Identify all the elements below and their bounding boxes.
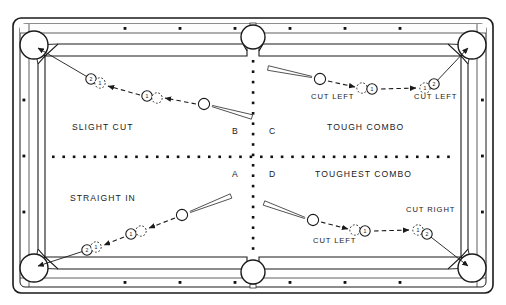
rail-diamond-left-0 xyxy=(23,99,26,102)
divider-dot-vertical xyxy=(252,216,255,219)
cut-label-top-right-0: CUT LEFT xyxy=(311,92,354,101)
divider-dot-horizontal xyxy=(354,156,357,159)
divider-dot-vertical xyxy=(252,185,255,188)
divider-dot-horizontal xyxy=(229,156,232,159)
rail-diamond-bottom-3 xyxy=(289,281,292,284)
divider-dot-horizontal xyxy=(94,156,97,159)
rail-diamond-left-1 xyxy=(23,155,26,158)
divider-dot-vertical xyxy=(252,133,255,136)
side-pocket-top xyxy=(241,25,265,49)
ball-number-1-top-left: 1 xyxy=(146,93,149,99)
cut-label-bottom-right-0: CUT LEFT xyxy=(313,236,356,245)
rail-diamond-bottom-2 xyxy=(234,281,237,284)
quadrant-letter-c: C xyxy=(269,126,275,136)
rail-diamond-top-5 xyxy=(399,27,402,30)
divider-dot-horizontal xyxy=(312,156,315,159)
ball-number-1-bottom-right: 1 xyxy=(417,227,420,233)
rail-diamond-bottom-5 xyxy=(399,281,402,284)
ball-number-1-bottom-right: 1 xyxy=(364,228,367,234)
divider-dot-horizontal xyxy=(177,156,180,159)
divider-dot-horizontal xyxy=(239,156,242,159)
ball-number-1-bottom-left: 1 xyxy=(95,244,98,250)
cue-ball-top-left xyxy=(198,98,209,109)
divider-dot-horizontal xyxy=(385,156,388,159)
divider-dot-vertical xyxy=(252,143,255,146)
divider-dot-horizontal xyxy=(125,156,128,159)
divider-dot-horizontal xyxy=(437,156,440,159)
divider-dot-horizontal xyxy=(406,156,409,159)
divider-dot-horizontal xyxy=(281,156,284,159)
rail-diamond-top-3 xyxy=(289,27,292,30)
ball-number-2-top-right: 2 xyxy=(433,81,436,87)
divider-dot-horizontal xyxy=(343,156,346,159)
divider-dot-vertical xyxy=(252,60,255,63)
rail-diamond-top-4 xyxy=(344,27,347,30)
divider-dot-vertical xyxy=(252,122,255,125)
divider-dot-horizontal xyxy=(374,156,377,159)
divider-dot-horizontal xyxy=(52,156,55,159)
divider-dot-horizontal xyxy=(416,156,419,159)
ball-number-2-bottom-left: 2 xyxy=(86,247,89,253)
quadrant-letter-b: B xyxy=(232,126,238,136)
quadrant-letter-d: D xyxy=(269,169,275,179)
divider-dot-vertical xyxy=(252,174,255,177)
ball-number-1-top-left: 1 xyxy=(99,80,102,86)
rail-diamond-right-2 xyxy=(481,211,484,214)
rail-diamond-bottom-0 xyxy=(124,281,127,284)
divider-dot-horizontal xyxy=(322,156,325,159)
quadrant-title-bottom-left: STRAIGHT IN xyxy=(70,193,136,203)
divider-dot-vertical xyxy=(252,247,255,250)
divider-dot-vertical xyxy=(252,81,255,84)
divider-dot-horizontal xyxy=(260,156,263,159)
quadrant-title-top-left: SLIGHT CUT xyxy=(72,122,133,132)
divider-dot-vertical xyxy=(252,91,255,94)
divider-dot-horizontal xyxy=(291,156,294,159)
quadrant-title-bottom-right: TOUGHEST COMBO xyxy=(315,169,412,179)
billiard-table-svg: 211112211112 SLIGHT CUTBTOUGH COMBOCCUT … xyxy=(0,0,506,305)
divider-dot-horizontal xyxy=(208,156,211,159)
divider-dot-horizontal xyxy=(364,156,367,159)
side-pocket-bottom xyxy=(241,260,265,284)
divider-dot-horizontal xyxy=(187,156,190,159)
divider-dot-horizontal xyxy=(166,156,169,159)
corner-pocket-bottom-left xyxy=(20,254,48,282)
cue-ball-bottom-left xyxy=(176,209,187,220)
divider-dot-vertical xyxy=(252,164,255,167)
divider-dot-vertical xyxy=(252,70,255,73)
divider-dot-vertical xyxy=(252,154,255,157)
ball-number-1-top-right: 1 xyxy=(371,86,374,92)
divider-dot-horizontal xyxy=(426,156,429,159)
divider-dot-horizontal xyxy=(104,156,107,159)
cut-label-bottom-right-1: CUT RIGHT xyxy=(406,205,455,214)
ball-number-1-bottom-left: 1 xyxy=(130,231,133,237)
cut-label-top-right-1: CUT LEFT xyxy=(414,92,457,101)
quadrant-title-top-right: TOUGH COMBO xyxy=(327,122,404,132)
divider-dot-horizontal xyxy=(447,156,450,159)
divider-dot-horizontal xyxy=(73,156,76,159)
quadrant-letter-a: A xyxy=(232,169,238,179)
divider-dot-horizontal xyxy=(302,156,305,159)
divider-dot-horizontal xyxy=(395,156,398,159)
divider-dot-horizontal xyxy=(270,156,273,159)
divider-dot-horizontal xyxy=(135,156,138,159)
ball-number-1-top-right: 1 xyxy=(424,85,427,91)
divider-dot-vertical xyxy=(252,206,255,209)
divider-dot-horizontal xyxy=(83,156,86,159)
corner-pocket-bottom-right xyxy=(458,254,486,282)
pool-shot-diagram: 211112211112 SLIGHT CUTBTOUGH COMBOCCUT … xyxy=(0,0,506,305)
rail-diamond-right-0 xyxy=(481,99,484,102)
ghost-cue-position-bottom-left xyxy=(136,226,146,236)
divider-dot-horizontal xyxy=(146,156,149,159)
rail-diamond-bottom-1 xyxy=(179,281,182,284)
ghost-cue-position-top-right xyxy=(357,83,367,93)
rail-diamond-top-0 xyxy=(124,27,127,30)
corner-pocket-top-right xyxy=(458,31,486,59)
cue-ball-bottom-right xyxy=(307,214,318,225)
divider-dot-horizontal xyxy=(62,156,65,159)
rail-diamond-bottom-4 xyxy=(344,281,347,284)
divider-dot-vertical xyxy=(252,226,255,229)
divider-dot-horizontal xyxy=(198,156,201,159)
divider-dot-vertical xyxy=(252,195,255,198)
divider-dot-vertical xyxy=(252,237,255,240)
divider-dot-vertical xyxy=(252,102,255,105)
